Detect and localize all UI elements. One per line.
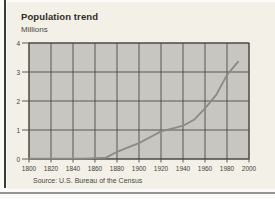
- x-tick-label: 2000: [242, 165, 257, 172]
- x-tick-label: 1940: [176, 165, 191, 172]
- x-tick-label: 1980: [220, 165, 235, 172]
- x-tick-label: 1960: [198, 165, 213, 172]
- y-tick-label: 3: [16, 69, 20, 76]
- y-tick-label: 4: [16, 40, 20, 47]
- y-tick-label: 2: [16, 98, 20, 105]
- x-tick-label: 1900: [132, 165, 147, 172]
- y-tick-label: 0: [16, 156, 20, 163]
- source-note: Source: U.S. Bureau of the Census: [33, 177, 142, 184]
- population-line-chart: 1800182018401860188019001920194019601980…: [0, 0, 275, 199]
- x-tick-label: 1800: [22, 165, 37, 172]
- x-tick-label: 1880: [110, 165, 125, 172]
- y-tick-label: 1: [16, 127, 20, 134]
- x-tick-label: 1820: [44, 165, 59, 172]
- x-tick-label: 1860: [88, 165, 103, 172]
- x-tick-label: 1840: [66, 165, 81, 172]
- x-tick-label: 1920: [154, 165, 169, 172]
